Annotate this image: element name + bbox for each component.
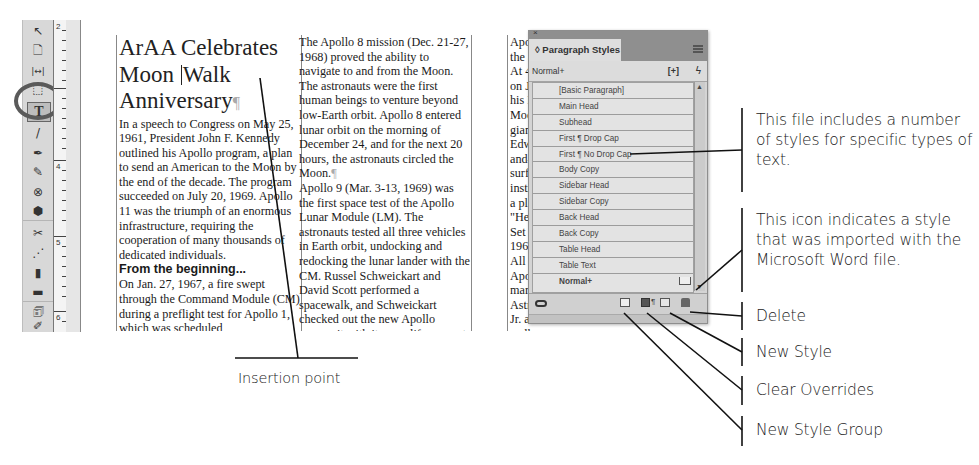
pilcrow: ¶ [233,94,240,111]
body-paragraph: In a speech to Congress on May 25, 1961,… [119,117,301,263]
headline-line-3: Anniversary [119,88,233,113]
tools-panel: ↖ 🗋 |↔| ⬚ T / ✒ ✎ ⊗ ⬢ ✂ ⋰ ▮ ▬ 🗊 ✐ [22,20,54,332]
insertion-point-cursor [181,65,182,85]
style-list-scrollbar[interactable]: ▲ ▼ [694,82,705,291]
callout-styles-note: This file includes a number of styles fo… [756,110,976,170]
polygon-tool-icon[interactable]: ⬢ [27,202,49,220]
pasteboard-edge [66,20,81,332]
subhead: From the beginning... [119,262,301,277]
current-style-label: Normal+ [532,66,564,76]
delete-style-button[interactable] [681,298,690,307]
style-item-table-head[interactable]: Table Head [533,242,693,258]
gradient-feather-tool-icon[interactable]: ▬ [27,283,49,301]
callout-insertion-point: Insertion point [238,368,340,388]
quick-apply-icon[interactable]: ϟ [696,61,701,81]
new-style-button[interactable] [660,298,670,307]
text-frame-column-1[interactable]: ArAA Celebrates Moon Walk Anniversary¶ I… [116,35,302,331]
cc-libraries-icon[interactable] [535,300,547,307]
style-item-first-no-drop-cap[interactable]: First ¶ No Drop Cap [533,147,693,163]
imported-style-icon [679,277,691,285]
text-line: walks, collecting rocks and setting [510,327,590,331]
headline-line-2a: Moon [119,62,174,87]
pencil-tool-icon[interactable]: ✎ [27,163,49,181]
ruler-label: 6 [56,313,60,322]
style-item-first-drop-cap[interactable]: First ¶ Drop Cap [533,131,693,147]
scroll-up-arrow-icon[interactable]: ▲ [696,83,703,90]
clear-overrides-button[interactable] [641,298,650,307]
panel-drag-bar[interactable]: × [529,31,707,39]
style-item-table-text[interactable]: Table Text [533,258,693,274]
style-item-subhead[interactable]: Subhead [533,115,693,131]
style-item-basic-paragraph[interactable]: [Basic Paragraph] [533,83,693,99]
body-paragraph: Apollo 9 (Mar. 3-13, 1969) was the first… [299,181,471,331]
scroll-down-arrow-icon[interactable]: ▼ [696,283,703,290]
style-item-main-head[interactable]: Main Head [533,99,693,115]
callout-new-style-group: New Style Group [756,420,883,440]
selection-tool-icon[interactable]: ↖ [27,22,49,40]
ruler-label: 5 [56,238,60,247]
callout-clear-overrides: Clear Overrides [756,380,874,400]
ruler-label: 2 [56,22,60,31]
style-list: [Basic Paragraph] Main Head Subhead Firs… [532,82,694,293]
text-frame-column-2[interactable]: The Apollo 8 mission (Dec. 21-27, 1968) … [297,35,472,331]
body-paragraph: The Apollo 8 mission (Dec. 21-27, 1968) … [299,35,471,181]
tab-paragraph-styles[interactable]: ◊ Paragraph Styles [529,39,621,61]
body-paragraph: On Jan. 27, 1967, a fire swept through t… [119,277,301,331]
free-transform-tool-icon[interactable]: ⋰ [27,244,49,262]
gradient-swatch-tool-icon[interactable]: ▮ [27,264,49,282]
panel-resize-handle[interactable] [529,314,707,323]
panel-menu-icon[interactable] [693,45,703,53]
style-item-sidebar-head[interactable]: Sidebar Head [533,178,693,194]
eyedropper-tool-icon[interactable]: ✐ [27,320,49,332]
close-icon[interactable]: × [533,28,538,37]
style-item-body-copy[interactable]: Body Copy [533,162,693,178]
panel-tab-bar: ◊ Paragraph Styles [529,39,707,61]
line-tool-icon[interactable]: / [27,124,49,142]
style-item-normal-label: Normal+ [559,277,592,286]
callout-import-note: This icon indicates a style that was imp… [756,210,976,270]
new-style-group-button[interactable] [620,298,630,307]
rectangle-frame-tool-icon[interactable]: ⊗ [27,183,49,201]
headline-line-1: ArAA Celebrates [119,35,278,60]
page-tool-icon[interactable]: 🗋 [27,42,49,60]
pen-tool-icon[interactable]: ✒ [27,144,49,162]
headline-line-2b: Walk [183,62,231,87]
style-item-normal[interactable]: Normal+ [533,274,693,292]
style-item-back-head[interactable]: Back Head [533,210,693,226]
create-style-group-icon[interactable]: [+] [668,61,679,81]
scissors-tool-icon[interactable]: ✂ [27,224,49,242]
style-item-sidebar-copy[interactable]: Sidebar Copy [533,194,693,210]
vertical-ruler[interactable]: 2 4 5 6 [53,20,67,332]
ruler-label: 4 [56,162,60,171]
gap-tool-icon[interactable]: |↔| [27,62,49,80]
style-item-back-copy[interactable]: Back Copy [533,226,693,242]
headline: ArAA Celebrates Moon Walk Anniversary¶ [119,35,301,117]
tool-divider [23,220,53,221]
callout-new-style: New Style [756,342,832,362]
panel-footer: ¶ [529,293,707,314]
paragraph-styles-panel: × ◊ Paragraph Styles Normal+ [+] ϟ [Basi… [528,30,708,324]
callout-delete: Delete [756,306,806,326]
current-style-bar: Normal+ [+] ϟ [529,61,707,82]
